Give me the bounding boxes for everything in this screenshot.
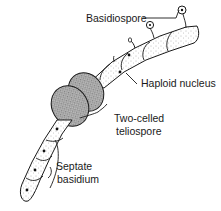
basidium-illustration <box>0 0 221 211</box>
label-basidiospore: Basidiospore <box>86 12 147 24</box>
label-basidium-line1: Septate <box>56 160 92 172</box>
label-basidium-line2: basidium <box>57 173 99 185</box>
label-teliospore-line1: Two-celled <box>114 112 164 124</box>
label-haploid-nucleus: Haploid nucleus <box>141 77 216 89</box>
label-teliospore-line2: teliospore <box>116 125 162 137</box>
diagram-canvas: Basidiospore Haploid nucleus Two-celled … <box>0 0 221 211</box>
